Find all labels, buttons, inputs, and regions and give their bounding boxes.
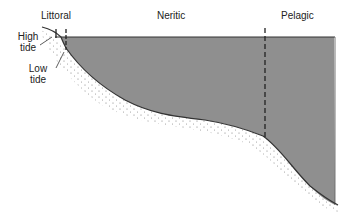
high-tide-label: High tide (13, 31, 43, 53)
high-tide-label-line2: tide (13, 42, 43, 53)
ocean-zones-diagram (0, 0, 349, 217)
low-tide-label-line1: Low (24, 63, 52, 74)
zone-label-pelagic: Pelagic (281, 10, 314, 21)
zone-label-neritic: Neritic (157, 10, 185, 21)
low-tide-label: Low tide (24, 63, 52, 85)
zone-label-littoral: Littoral (41, 10, 71, 21)
low-tide-label-line2: tide (24, 74, 52, 85)
high-tide-label-line1: High (13, 31, 43, 42)
